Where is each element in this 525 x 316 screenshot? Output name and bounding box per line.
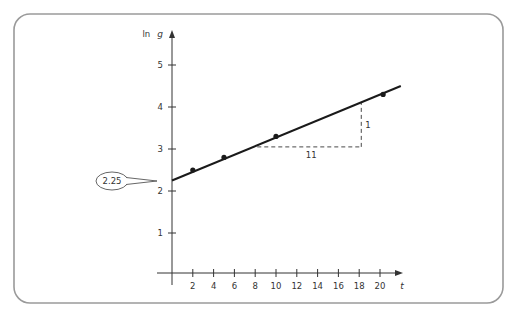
x-tick-label: 18 (354, 281, 365, 291)
rise-label: 1 (365, 120, 370, 130)
callout-text: 2.25 (103, 176, 122, 186)
x-axis-title: t (400, 281, 404, 291)
x-tick-label: 14 (312, 281, 323, 291)
data-point (221, 155, 226, 160)
x-tick-label: 16 (333, 281, 344, 291)
y-tick-label: 1 (158, 228, 163, 238)
x-tick-label: 20 (375, 281, 386, 291)
data-point (190, 167, 195, 172)
data-point (273, 134, 278, 139)
y-tick-label: 4 (158, 102, 163, 112)
data-point (381, 92, 386, 97)
x-tick-label: 8 (252, 281, 257, 291)
x-tick-label: 10 (271, 281, 282, 291)
x-tick-label: 12 (291, 281, 302, 291)
y-tick-label: 3 (158, 144, 163, 154)
run-label: 11 (306, 150, 317, 160)
figure-frame (14, 14, 503, 303)
x-tick-label: 4 (211, 281, 216, 291)
chart: 12345 2468101214161820 ln g t 111 2.25 (0, 0, 525, 316)
x-tick-label: 6 (232, 281, 237, 291)
figure: 12345 2468101214161820 ln g t 111 2.25 (0, 0, 525, 316)
y-tick-label: 2 (158, 186, 163, 196)
y-tick-label: 5 (158, 60, 163, 70)
x-tick-label: 2 (190, 281, 195, 291)
